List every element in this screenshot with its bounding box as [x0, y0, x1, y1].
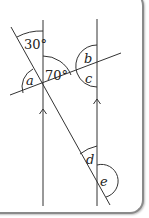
angle-label-e: e: [100, 174, 108, 189]
angle-label-c: c: [85, 71, 93, 86]
angle-label-b: b: [84, 51, 92, 66]
angle-label-d: d: [86, 152, 94, 167]
angle-diagram: 30° 70° a b c d e: [0, 0, 149, 218]
angle-label-30: 30°: [24, 37, 47, 52]
angle-label-70: 70°: [45, 68, 68, 83]
angle-label-a: a: [26, 73, 34, 88]
steep-transversal: [11, 27, 110, 205]
